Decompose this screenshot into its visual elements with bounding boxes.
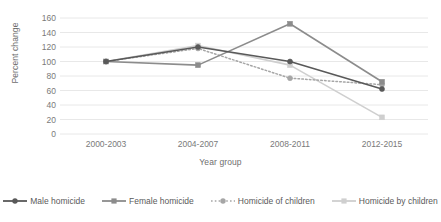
legend-label: Female homicide [129,197,194,206]
series-male-homicide [104,45,385,92]
x-tick-label: 2000-2003 [86,140,127,149]
data-point [196,45,201,50]
data-point [380,79,385,84]
series-homicide-of-children [104,46,385,87]
x-tick-label: 2008-2011 [270,140,310,149]
chart-legend: Male homicideFemale homicideHomicide of … [0,196,441,206]
y-tick-label: 40 [47,101,56,110]
legend-item-male-homicide[interactable]: Male homicide [3,196,85,206]
legend-swatch-icon [102,196,126,206]
series-line [106,47,382,89]
line-chart: Percent change 160140120100806040200 200… [0,0,441,222]
y-tick-label: 60 [47,86,56,95]
x-axis-tick-labels: 2000-20032004-20072008-20112012-2015 [60,140,428,154]
x-tick-label: 2004-2007 [178,140,219,149]
y-axis-title: Percent change [10,8,20,98]
y-tick-label: 20 [47,115,56,124]
legend-swatch-icon [3,196,27,206]
y-axis-tick-labels: 160140120100806040200 [22,0,56,222]
data-point [380,87,385,92]
y-tick-label: 140 [42,28,56,37]
legend-item-homicide-of-children[interactable]: Homicide of children [211,196,315,206]
data-point [288,59,293,64]
data-point [196,63,201,68]
legend-label: Homicide by children [359,197,438,206]
data-point [288,76,293,81]
x-tick-label: 2012-2015 [362,140,403,149]
data-point [104,59,109,64]
y-tick-label: 120 [42,43,56,52]
data-point [288,21,293,26]
legend-item-female-homicide[interactable]: Female homicide [102,196,194,206]
plot-svg [60,18,428,134]
y-tick-label: 100 [42,57,56,66]
legend-label: Homicide of children [238,197,315,206]
legend-swatch-icon [332,196,356,206]
x-axis-title: Year group [0,157,441,167]
y-tick-label: 0 [51,130,56,139]
plot-area [60,18,428,134]
legend-item-homicide-by-children[interactable]: Homicide by children [332,196,438,206]
legend-label: Male homicide [30,197,85,206]
y-tick-label: 80 [47,72,56,81]
legend-swatch-icon [211,196,235,206]
data-point [380,115,385,120]
series-female-homicide [104,21,385,84]
y-tick-label: 160 [42,14,56,23]
